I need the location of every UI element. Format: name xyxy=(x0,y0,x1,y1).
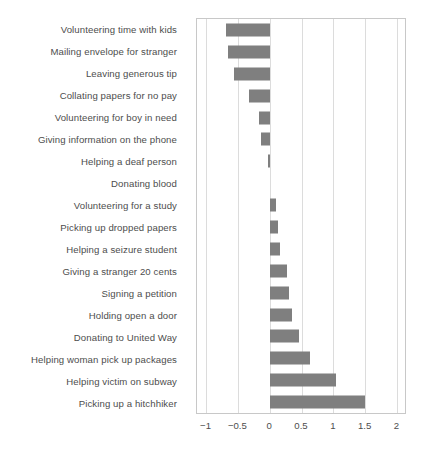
x-axis-tick-labels: −1−0.500.511.52 xyxy=(196,414,406,444)
bar xyxy=(270,374,336,387)
y-axis-label: Picking up a hitchhiker xyxy=(0,392,186,414)
bar-row xyxy=(197,172,405,194)
bar xyxy=(234,67,270,80)
bar-row xyxy=(197,238,405,260)
x-tick-label: −0.5 xyxy=(228,420,247,431)
y-axis-label: Volunteering time with kids xyxy=(0,18,186,40)
bar xyxy=(270,264,287,277)
bar-row xyxy=(197,150,405,172)
bar-row xyxy=(197,19,405,41)
bar xyxy=(270,242,280,255)
x-tick-label: 0.5 xyxy=(294,420,307,431)
bar xyxy=(270,220,278,233)
bar-row xyxy=(197,107,405,129)
y-axis-label: Giving information on the phone xyxy=(0,128,186,150)
bar-row xyxy=(197,304,405,326)
x-tick-label: 1.5 xyxy=(358,420,371,431)
bar xyxy=(270,330,299,343)
x-tick-label: 0 xyxy=(267,420,272,431)
bar-row xyxy=(197,391,405,413)
bar-row xyxy=(197,63,405,85)
y-axis-label: Helping woman pick up packages xyxy=(0,348,186,370)
bar-row xyxy=(197,347,405,369)
y-axis-label: Holding open a door xyxy=(0,304,186,326)
bar xyxy=(226,23,270,36)
bar xyxy=(270,286,289,299)
bar xyxy=(228,45,270,58)
bar-series xyxy=(197,19,405,413)
y-axis-label: Donating blood xyxy=(0,172,186,194)
x-tick-label: −1 xyxy=(200,420,211,431)
bar-row xyxy=(197,85,405,107)
bar-row xyxy=(197,194,405,216)
bar xyxy=(249,89,270,102)
y-axis-label: Picking up dropped papers xyxy=(0,216,186,238)
y-axis-label: Giving a stranger 20 cents xyxy=(0,260,186,282)
y-axis-label: Helping a deaf person xyxy=(0,150,186,172)
bar-row xyxy=(197,128,405,150)
x-tick-label: 2 xyxy=(394,420,399,431)
bar-row xyxy=(197,282,405,304)
x-tick-label: 1 xyxy=(330,420,335,431)
plot-area xyxy=(196,18,406,414)
y-axis-category-labels: Volunteering time with kidsMailing envel… xyxy=(0,18,186,414)
y-axis-label: Mailing envelope for stranger xyxy=(0,40,186,62)
bar xyxy=(270,396,365,409)
bar-row xyxy=(197,325,405,347)
y-axis-label: Helping a seizure student xyxy=(0,238,186,260)
bar-row xyxy=(197,216,405,238)
y-axis-label: Volunteering for a study xyxy=(0,194,186,216)
bar xyxy=(270,352,310,365)
bar xyxy=(270,199,276,212)
y-axis-label: Signing a petition xyxy=(0,282,186,304)
y-axis-label: Volunteering for boy in need xyxy=(0,106,186,128)
y-axis-label: Donating to United Way xyxy=(0,326,186,348)
bar xyxy=(259,111,270,124)
bar-row xyxy=(197,369,405,391)
bar-row xyxy=(197,260,405,282)
bar-chart-figure: Volunteering time with kidsMailing envel… xyxy=(0,0,430,450)
bar xyxy=(270,308,292,321)
y-axis-label: Leaving generous tip xyxy=(0,62,186,84)
y-axis-label: Helping victim on subway xyxy=(0,370,186,392)
y-axis-label: Collating papers for no pay xyxy=(0,84,186,106)
bar-row xyxy=(197,41,405,63)
bar xyxy=(268,155,270,168)
bar xyxy=(261,133,270,146)
